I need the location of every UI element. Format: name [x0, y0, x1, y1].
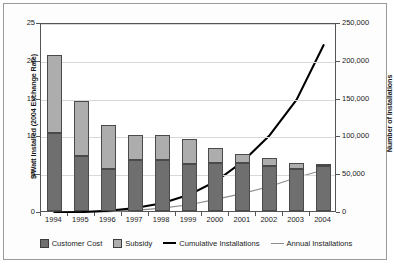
bar-segment-subsidy[interactable] [74, 101, 89, 156]
y-axis-left-tick-label: 15 [5, 94, 35, 103]
bar-segment-subsidy[interactable] [182, 139, 197, 164]
bar-group[interactable] [47, 22, 62, 211]
bar-group[interactable] [182, 22, 197, 211]
bar-segment-subsidy[interactable] [289, 163, 304, 169]
bar-segment-subsidy[interactable] [235, 154, 250, 162]
y-axis-left-tick-label: 0 [5, 207, 35, 216]
y-axis-right-tick-label: 100,000 [342, 131, 384, 140]
chart-frame: $/Watt Installed (2004 Exchange Rate) Nu… [3, 3, 387, 260]
legend-item-label: Subsidy [125, 239, 152, 248]
y-axis-left-tick-label: 25 [5, 18, 35, 27]
bar-group[interactable] [262, 22, 277, 211]
y-axis-left-tick-label: 10 [5, 131, 35, 140]
legend-item-label: Customer Cost [52, 239, 103, 248]
legend-item[interactable]: Annual Installations [271, 239, 353, 248]
bar-group[interactable] [74, 22, 89, 211]
bar-segment-customer-cost[interactable] [289, 169, 304, 211]
bar-segment-customer-cost[interactable] [208, 163, 223, 211]
legend-item-label: Cumulative Installations [179, 239, 259, 248]
bar-segment-subsidy[interactable] [262, 158, 277, 166]
bar-segment-customer-cost[interactable] [182, 164, 197, 211]
bar-segment-customer-cost[interactable] [74, 156, 89, 211]
y-axis-right-tick-label: 250,000 [342, 18, 384, 27]
bar-segment-subsidy[interactable] [47, 55, 62, 134]
bar-group[interactable] [128, 22, 143, 211]
legend-item[interactable]: Subsidy [113, 239, 152, 248]
bar-segment-subsidy[interactable] [208, 148, 223, 164]
bar-group[interactable] [316, 22, 331, 211]
bar-segment-customer-cost[interactable] [155, 160, 170, 211]
bar-group[interactable] [235, 22, 250, 211]
y-axis-right-tick-label: 0 [342, 207, 384, 216]
bar-segment-customer-cost[interactable] [47, 133, 62, 211]
y-axis-left-tick-label: 20 [5, 56, 35, 65]
legend-item[interactable]: Customer Cost [40, 239, 103, 248]
plot-area [40, 23, 336, 212]
x-axis-tick-label: 2004 [306, 215, 340, 224]
bar-group[interactable] [289, 22, 304, 211]
bar-segment-subsidy[interactable] [155, 135, 170, 159]
chart-legend: Customer CostSubsidyCumulative Installat… [20, 234, 372, 252]
y-axis-left-tick-label: 5 [5, 169, 35, 178]
bar-segment-customer-cost[interactable] [235, 163, 250, 211]
thick-line-icon [163, 242, 176, 244]
bar-group[interactable] [101, 22, 116, 211]
legend-item-label: Annual Installations [287, 239, 353, 248]
legend-item[interactable]: Cumulative Installations [163, 239, 259, 248]
square-swatch-icon [113, 239, 122, 248]
y-axis-right-tick-label: 200,000 [342, 56, 384, 65]
bar-group[interactable] [155, 22, 170, 211]
square-swatch-icon [40, 239, 49, 248]
y-axis-right-title: Number of Installations [385, 29, 394, 199]
bar-group[interactable] [208, 22, 223, 211]
thin-line-icon [271, 243, 284, 244]
bar-segment-subsidy[interactable] [101, 125, 116, 169]
y-axis-right-tick-label: 50,000 [342, 169, 384, 178]
bar-segment-customer-cost[interactable] [316, 166, 331, 211]
bar-segment-customer-cost[interactable] [101, 169, 116, 211]
y-axis-right-tick-label: 150,000 [342, 94, 384, 103]
bar-segment-customer-cost[interactable] [262, 166, 277, 211]
bar-segment-subsidy[interactable] [316, 164, 331, 166]
bar-segment-subsidy[interactable] [128, 135, 143, 159]
bar-segment-customer-cost[interactable] [128, 160, 143, 211]
